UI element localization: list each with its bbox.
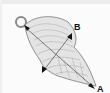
- dimension-b-label: B: [74, 23, 81, 32]
- shell-pendant-illustration: [0, 0, 110, 93]
- dimension-a-label: A: [97, 85, 104, 93]
- shell-body: [25, 17, 96, 86]
- diagram-canvas: B A: [0, 0, 110, 93]
